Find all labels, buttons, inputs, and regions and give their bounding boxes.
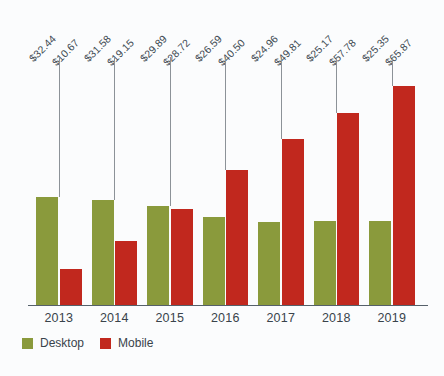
x-axis-tick-2013: 2013 [28,311,90,325]
legend-label-mobile: Mobile [118,336,153,350]
bar-mobile-2018 [337,113,359,305]
x-axis-tick-2015: 2015 [139,311,201,325]
bar-mobile-2014 [115,241,137,305]
x-axis-tick-2018: 2018 [306,311,368,325]
bar-chart: $32.44$10.67$31.58$19.15$29.89$28.72$26.… [0,0,444,376]
bar-desktop-2015 [147,206,169,305]
bar-mobile-2016 [226,170,248,305]
leader-line-2014 [114,57,115,200]
bar-desktop-2018 [314,221,336,305]
leader-line-2016 [225,57,226,170]
legend-item-desktop: Desktop [22,336,84,350]
bar-desktop-2014 [92,200,114,305]
legend-swatch-desktop-icon [22,338,33,349]
legend-swatch-mobile-icon [100,338,111,349]
leader-line-2019 [392,57,393,86]
bar-desktop-2019 [369,221,391,305]
bar-mobile-2019 [393,86,415,305]
leader-line-2015 [170,57,171,206]
x-axis-tick-2016: 2016 [195,311,257,325]
x-axis-tick-2014: 2014 [84,311,146,325]
legend-label-desktop: Desktop [40,336,84,350]
bar-mobile-2015 [171,209,193,305]
x-axis-tick-2017: 2017 [250,311,312,325]
bar-desktop-2013 [36,197,58,305]
legend-item-mobile: Mobile [100,336,153,350]
leader-line-2013 [59,57,60,197]
bar-desktop-2017 [258,222,280,305]
x-axis-tick-2019: 2019 [361,311,423,325]
bar-desktop-2016 [203,217,225,306]
x-axis-line [28,305,428,306]
plot-area [0,0,444,306]
bar-mobile-2013 [60,269,82,305]
bar-mobile-2017 [282,139,304,305]
chart-legend: Desktop Mobile [22,336,153,350]
leader-line-2017 [281,57,282,139]
leader-line-2018 [336,57,337,113]
